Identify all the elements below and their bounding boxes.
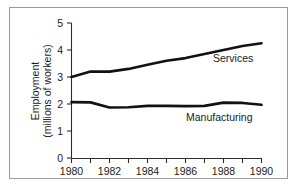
x-tick-label-1990: 1990 bbox=[250, 165, 274, 177]
x-tick-label-1986: 1986 bbox=[174, 165, 198, 177]
y-axis-title-line2: (millions of workers) bbox=[41, 44, 53, 137]
x-axis-ticks bbox=[72, 159, 262, 164]
series-label-manufacturing: Manufacturing bbox=[186, 111, 253, 123]
line-chart: 5 4 3 2 1 0 1980 1982 1984 1986 bbox=[0, 0, 301, 194]
x-tick-label-1988: 1988 bbox=[212, 165, 236, 177]
y-axis-title-line1: Employment bbox=[29, 62, 41, 120]
y-tick-label-0: 0 bbox=[57, 152, 63, 164]
y-tick-label-5: 5 bbox=[57, 17, 63, 29]
y-axis-ticks bbox=[67, 23, 72, 158]
y-axis-tick-labels: 5 4 3 2 1 0 bbox=[57, 17, 63, 164]
y-tick-label-2: 2 bbox=[57, 98, 63, 110]
chart-figure: 5 4 3 2 1 0 1980 1982 1984 1986 bbox=[0, 0, 301, 194]
y-tick-label-3: 3 bbox=[57, 71, 63, 83]
x-tick-label-1984: 1984 bbox=[136, 165, 160, 177]
x-tick-label-1980: 1980 bbox=[60, 165, 84, 177]
x-axis-tick-labels: 1980 1982 1984 1986 1988 1990 bbox=[60, 165, 274, 177]
series-line-manufacturing bbox=[72, 102, 262, 107]
series-label-services: Services bbox=[213, 52, 253, 64]
x-tick-label-1982: 1982 bbox=[98, 165, 122, 177]
y-tick-label-1: 1 bbox=[57, 125, 63, 137]
y-tick-label-4: 4 bbox=[57, 44, 63, 56]
